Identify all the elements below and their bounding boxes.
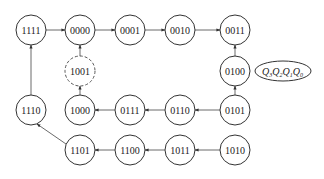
state-label: 0111 xyxy=(120,105,139,116)
state-label: 1010 xyxy=(225,145,245,156)
state-0001: 0001 xyxy=(115,15,145,45)
state-label: 0101 xyxy=(225,105,245,116)
state-label: 1110 xyxy=(21,105,40,116)
transitions xyxy=(31,30,235,150)
state-0011: 0011 xyxy=(220,15,250,45)
state-1001-invalid: 1001 xyxy=(65,56,95,86)
state-label: 1101 xyxy=(70,145,90,156)
state-0100: 0100 xyxy=(220,56,250,86)
state-label: 1111 xyxy=(22,25,41,36)
state-1100: 1100 xyxy=(115,135,145,165)
state-1101: 1101 xyxy=(65,135,95,165)
state-label: 1011 xyxy=(170,145,190,156)
state-variable-legend: Q3Q2Q1Q0 xyxy=(255,61,311,81)
state-0101: 0101 xyxy=(220,95,250,125)
state-0010: 0010 xyxy=(165,15,195,45)
state-label: 1100 xyxy=(120,145,140,156)
state-label: 0000 xyxy=(70,25,90,36)
state-label: 1001 xyxy=(70,66,90,77)
state-1000: 1000 xyxy=(65,95,95,125)
state-0111: 0111 xyxy=(115,95,145,125)
state-label: 0100 xyxy=(225,66,245,77)
state-label: 0010 xyxy=(170,25,190,36)
state-0000: 0000 xyxy=(65,15,95,45)
state-label: 1000 xyxy=(70,105,90,116)
edge-1101-1110 xyxy=(37,124,66,144)
state-1111: 1111 xyxy=(16,15,46,45)
state-1011: 1011 xyxy=(165,135,195,165)
state-diagram: 1111 0000 0001 0010 0011 1001 0100 1110 … xyxy=(0,0,324,179)
state-label: 0011 xyxy=(225,25,245,36)
state-0110: 0110 xyxy=(165,95,195,125)
state-label: 0110 xyxy=(170,105,190,116)
state-label: 0001 xyxy=(120,25,140,36)
legend-label: Q3Q2Q1Q0 xyxy=(262,66,303,78)
state-1110: 1110 xyxy=(16,95,46,125)
state-1010: 1010 xyxy=(220,135,250,165)
